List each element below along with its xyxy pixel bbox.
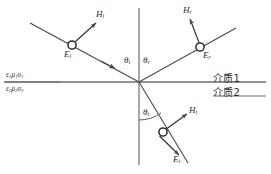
incident-ray — [30, 23, 139, 82]
lower-medium-parameters: ε2μ2σ2 — [6, 84, 23, 93]
incident-h-vector — [76, 23, 97, 42]
incident-field-marker — [68, 41, 76, 49]
reflected-h-label: Hr — [183, 6, 192, 15]
transmitted-h-subscript: t — [196, 109, 198, 115]
incident-ray-direction-arrow — [101, 61, 115, 69]
reflected-angle-subscript: r — [147, 59, 149, 65]
transmitted-e-subscript: t — [179, 158, 181, 164]
transmitted-h-label: Ht — [189, 106, 197, 115]
reflected-e-subscript: r — [209, 54, 211, 60]
upper-sigma-index: 1 — [21, 74, 23, 79]
incident-h-label: Hi — [96, 10, 104, 19]
transmitted-e-label: Et — [173, 155, 180, 164]
lower-sigma-index: 2 — [21, 88, 23, 93]
reflected-h-subscript: r — [190, 9, 192, 15]
incident-h-subscript: i — [103, 13, 105, 19]
transmitted-angle-label: θt — [143, 108, 149, 117]
incident-angle-label: θi — [124, 56, 130, 65]
transmitted-angle-subscript: t — [147, 111, 149, 117]
em-wave-interface-figure: ε1μ1σ1 ε2μ2σ2 介质1 介质2 θi θr θt Hi Ei Hr … — [0, 0, 271, 174]
incident-e-label: Ei — [64, 50, 71, 59]
incident-angle-subscript: i — [128, 59, 130, 65]
transmitted-e-vector — [160, 136, 180, 155]
transmitted-h-vector — [167, 114, 187, 129]
reflected-e-label: Er — [203, 51, 211, 60]
reflected-angle-label: θr — [143, 56, 150, 65]
medium-1-label: 介质1 — [213, 70, 240, 85]
incident-e-subscript: i — [70, 53, 72, 59]
reflected-h-vector — [190, 19, 199, 43]
upper-medium-parameters: ε1μ1σ1 — [6, 70, 23, 79]
transmitted-field-marker — [159, 128, 167, 136]
transmitted-ray — [139, 82, 188, 163]
medium-2-label: 介质2 — [213, 84, 240, 99]
